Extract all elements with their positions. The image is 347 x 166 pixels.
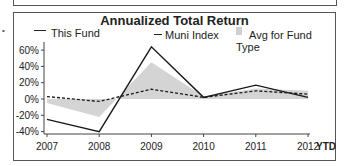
x-tick-label: 2008 xyxy=(88,141,111,152)
y-tick-label: -20% xyxy=(16,110,39,121)
x-tick-label: 2010 xyxy=(192,141,215,152)
y-tick-label: 40% xyxy=(19,61,39,72)
y-tick-label: 0% xyxy=(25,94,40,105)
ytd-label: YTD xyxy=(316,141,336,152)
y-tick-label: 60% xyxy=(19,45,39,56)
avg-fund-type-area xyxy=(47,62,308,117)
x-tick-label: 2009 xyxy=(140,141,163,152)
x-tick-label: 2011 xyxy=(245,141,267,152)
y-tick-label: 20% xyxy=(19,77,39,88)
x-tick-label: 2007 xyxy=(36,141,59,152)
y-tick-label: -40% xyxy=(16,126,39,137)
plot-area: 60%40%20%0%-20%-40%200720082009201020112… xyxy=(0,0,347,166)
